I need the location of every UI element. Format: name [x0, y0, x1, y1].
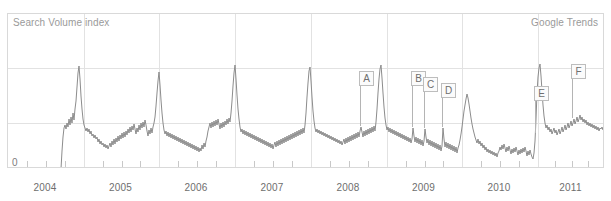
annotation-stem-C — [424, 92, 425, 128]
annotation-stem-A — [360, 86, 361, 126]
year-label-2011: 2011 — [559, 182, 581, 193]
annotation-flag-C[interactable]: C — [423, 77, 438, 92]
year-label-2008: 2008 — [336, 182, 359, 193]
annotation-flag-F[interactable]: F — [571, 64, 586, 79]
google-trends-chart-widget: Search Volume index Google Trends 0 2004… — [0, 0, 611, 201]
annotation-stem-B — [412, 86, 413, 127]
year-label-2005: 2005 — [109, 182, 132, 193]
y-axis-zero-label: 0 — [12, 158, 18, 168]
annotation-stem-F — [572, 79, 573, 118]
annotation-flag-D[interactable]: D — [441, 83, 456, 98]
plot-area — [7, 13, 604, 168]
annotation-stem-E — [535, 101, 536, 133]
search-volume-line-chart — [8, 14, 603, 167]
annotation-flag-A[interactable]: A — [359, 71, 374, 86]
year-label-2007: 2007 — [260, 182, 283, 193]
year-label-2006: 2006 — [184, 182, 207, 193]
quarter-tick-marks — [28, 161, 589, 167]
search-volume-series-line — [61, 64, 603, 167]
year-label-2009: 2009 — [412, 182, 435, 193]
year-label-2004: 2004 — [33, 182, 56, 193]
annotation-flag-E[interactable]: E — [534, 86, 549, 101]
annotation-stem-D — [442, 98, 443, 127]
year-label-2010: 2010 — [487, 182, 510, 193]
